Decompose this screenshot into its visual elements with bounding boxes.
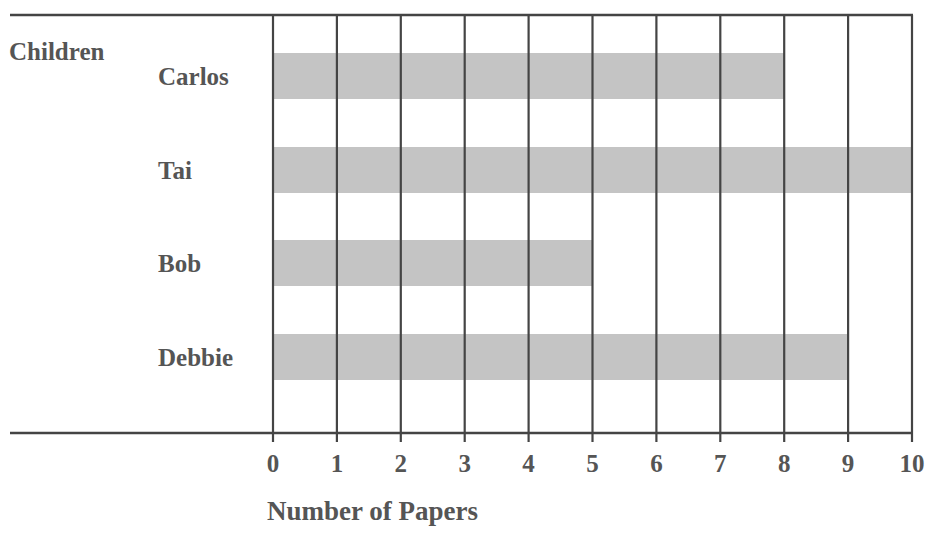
x-tick-labels: 012345678910 xyxy=(267,450,925,477)
category-label-carlos: Carlos xyxy=(158,63,229,90)
category-labels: CarlosTaiBobDebbie xyxy=(158,63,233,371)
tick-label-6: 6 xyxy=(650,450,663,477)
category-label-tai: Tai xyxy=(158,157,192,184)
bar-bob xyxy=(273,240,593,286)
tick-label-1: 1 xyxy=(331,450,344,477)
category-label-debbie: Debbie xyxy=(158,344,233,371)
category-label-bob: Bob xyxy=(158,250,201,277)
tick-label-8: 8 xyxy=(778,450,791,477)
tick-label-4: 4 xyxy=(522,450,535,477)
tick-label-5: 5 xyxy=(586,450,599,477)
x-tick-marks xyxy=(273,433,912,442)
horizontal-bar-chart: 012345678910 CarlosTaiBobDebbie Children… xyxy=(0,0,930,534)
y-axis-title: Children xyxy=(9,38,104,65)
tick-label-10: 10 xyxy=(900,450,925,477)
tick-label-0: 0 xyxy=(267,450,280,477)
tick-label-2: 2 xyxy=(395,450,408,477)
bar-debbie xyxy=(273,334,848,380)
tick-label-9: 9 xyxy=(842,450,855,477)
tick-label-3: 3 xyxy=(458,450,471,477)
tick-label-7: 7 xyxy=(714,450,727,477)
x-axis-title: Number of Papers xyxy=(267,496,478,526)
